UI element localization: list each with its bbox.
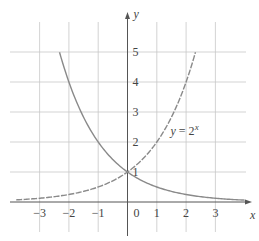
y-tick-label: 2 [133,135,139,149]
x-tick-label: 1 [154,206,160,220]
y-axis-arrow-icon [125,12,130,19]
y-tick-label: 3 [133,105,139,119]
annotations: y = 2x [170,122,199,138]
curves [16,52,245,200]
x-tick-label: 3 [212,206,218,220]
x-tick-label: 0 [134,206,140,220]
x-tick-label: −1 [92,206,105,220]
x-tick-label: −3 [33,206,46,220]
x-axis-title: x [249,208,256,222]
curve-half-pow-x [60,52,245,200]
x-tick-label: −2 [63,206,76,220]
y-tick-label: 5 [133,45,139,59]
curve-label: y = 2x [170,122,199,138]
x-axis-arrow-icon [245,200,252,205]
x-tick-label: 2 [183,206,189,220]
chart: xy −3−2−1012312345 y = 2x [0,0,259,241]
y-axis-title: y [133,7,140,21]
axes: xy [10,7,256,236]
y-tick-label: 4 [133,75,139,89]
curve-two-pow-x [16,52,195,200]
